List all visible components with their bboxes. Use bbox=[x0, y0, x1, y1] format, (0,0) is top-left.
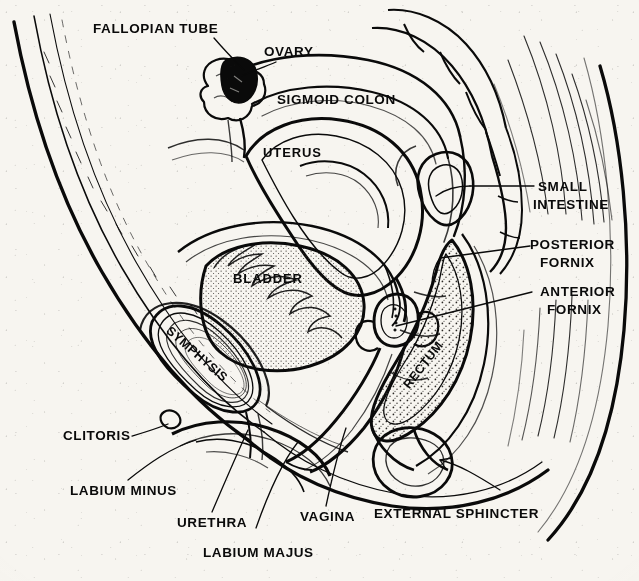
label-fallopian-tube: FALLOPIAN TUBE bbox=[93, 21, 218, 36]
label-labium-minus: LABIUM MINUS bbox=[70, 483, 177, 498]
label-small-intestine-line1: SMALL bbox=[538, 179, 588, 194]
label-bladder: BLADDER bbox=[233, 272, 303, 287]
label-external-sphincter: EXTERNAL SPHINCTER bbox=[374, 506, 539, 521]
label-posterior-fornix-line2: FORNIX bbox=[540, 255, 595, 270]
label-anterior-fornix-line2: FORNIX bbox=[547, 302, 602, 317]
label-anterior-fornix-line1: ANTERIOR bbox=[540, 284, 615, 299]
label-clitoris: CLITORIS bbox=[63, 428, 131, 443]
label-posterior-fornix-line1: POSTERIOR bbox=[530, 237, 615, 252]
label-urethra: URETHRA bbox=[177, 515, 247, 530]
label-sigmoid-colon: SIGMOID COLON bbox=[277, 92, 396, 107]
label-ovary: OVARY bbox=[264, 44, 314, 59]
anatomical-diagram-page: FALLOPIAN TUBE OVARY SIGMOID COLON UTERU… bbox=[0, 0, 639, 581]
label-small-intestine-line2: INTESTINE bbox=[533, 197, 609, 212]
label-uterus: UTERUS bbox=[263, 146, 322, 161]
label-vagina: VAGINA bbox=[300, 509, 355, 524]
label-labium-majus: LABIUM MAJUS bbox=[203, 545, 314, 560]
